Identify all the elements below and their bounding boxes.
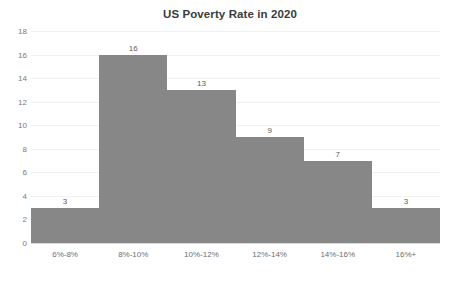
y-axis: 024681012141618 — [0, 31, 27, 243]
bar-chart: US Poverty Rate in 2020 024681012141618 … — [0, 0, 460, 281]
x-axis-tick-label: 8%-10% — [99, 250, 167, 259]
bar-slot[interactable]: 16 — [99, 31, 167, 243]
x-axis-tick-label: 6%-8% — [31, 250, 99, 259]
bar-slot[interactable]: 9 — [236, 31, 304, 243]
x-axis: 6%-8%8%-10%10%-12%12%-14%14%-16%16%+ — [31, 250, 440, 259]
bar-value-label: 9 — [236, 126, 304, 135]
bar-slot[interactable]: 13 — [167, 31, 235, 243]
bar-slot[interactable]: 7 — [304, 31, 372, 243]
y-axis-tick-label: 2 — [0, 215, 27, 224]
x-axis-tick-label: 16%+ — [372, 250, 440, 259]
bar[interactable] — [31, 208, 99, 243]
bar[interactable] — [372, 208, 440, 243]
bar[interactable] — [304, 161, 372, 243]
bar-value-label: 3 — [372, 197, 440, 206]
y-axis-tick-label: 4 — [0, 191, 27, 200]
chart-title: US Poverty Rate in 2020 — [0, 8, 460, 20]
x-axis-tick-label: 12%-14% — [236, 250, 304, 259]
y-axis-tick-label: 16 — [0, 50, 27, 59]
bar[interactable] — [167, 90, 235, 243]
y-axis-tick-label: 12 — [0, 97, 27, 106]
y-axis-tick-label: 8 — [0, 144, 27, 153]
bar[interactable] — [236, 137, 304, 243]
bar[interactable] — [99, 55, 167, 243]
y-axis-tick-label: 14 — [0, 74, 27, 83]
y-axis-tick-label: 0 — [0, 239, 27, 248]
bars-group: 31613973 — [31, 31, 440, 243]
y-axis-tick-label: 18 — [0, 27, 27, 36]
y-axis-tick-label: 10 — [0, 121, 27, 130]
gridline — [31, 243, 440, 244]
bar-value-label: 13 — [167, 79, 235, 88]
bar-value-label: 3 — [31, 197, 99, 206]
plot-area: 31613973 — [31, 31, 440, 243]
bar-value-label: 7 — [304, 150, 372, 159]
x-axis-tick-label: 10%-12% — [167, 250, 235, 259]
y-axis-tick-label: 6 — [0, 168, 27, 177]
x-axis-tick-label: 14%-16% — [304, 250, 372, 259]
bar-value-label: 16 — [99, 44, 167, 53]
bar-slot[interactable]: 3 — [372, 31, 440, 243]
bar-slot[interactable]: 3 — [31, 31, 99, 243]
